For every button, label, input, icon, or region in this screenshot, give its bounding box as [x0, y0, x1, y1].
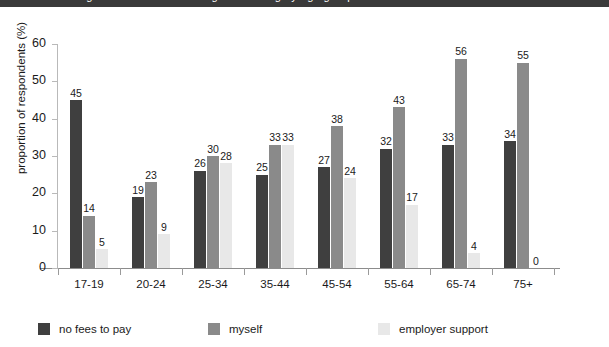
bar-group: 263028 — [182, 44, 244, 268]
bar[interactable] — [269, 145, 281, 268]
bar[interactable] — [145, 182, 157, 268]
bar-group: 253333 — [244, 44, 306, 268]
bar-wrapper: 43 — [393, 107, 405, 268]
bar[interactable] — [406, 205, 418, 268]
bar-value-label: 17 — [406, 192, 418, 203]
bar-value-label: 27 — [318, 155, 330, 166]
bar[interactable] — [393, 107, 405, 268]
legend-label: employer support — [399, 323, 488, 335]
bar[interactable] — [504, 141, 516, 268]
y-axis-tick-label: 0 — [0, 260, 46, 274]
bar-value-label: 32 — [380, 136, 392, 147]
x-axis-tick — [430, 268, 431, 275]
bar-group: 45145 — [58, 44, 120, 268]
x-axis-tick-label: 55-64 — [368, 278, 430, 296]
bar-wrapper: 33 — [282, 145, 294, 268]
bar-value-label: 26 — [194, 158, 206, 169]
bar[interactable] — [83, 216, 95, 268]
bar-value-label: 55 — [517, 50, 529, 61]
x-axis-ticks — [58, 268, 554, 276]
bar-group: 324317 — [368, 44, 430, 268]
bar[interactable] — [331, 126, 343, 268]
bar[interactable] — [517, 63, 529, 268]
bar-wrapper: 28 — [220, 163, 232, 268]
bar-value-label: 33 — [269, 132, 281, 143]
x-axis-tick-label: 25-34 — [182, 278, 244, 296]
x-axis-labels: 17-1920-2425-3435-4445-5455-6465-7475+ — [58, 278, 554, 296]
bar[interactable] — [455, 59, 467, 268]
bar[interactable] — [256, 175, 268, 268]
bar-wrapper: 23 — [145, 182, 157, 268]
bar-value-label: 25 — [256, 162, 268, 173]
bar[interactable] — [207, 156, 219, 268]
bar-wrapper: 14 — [83, 216, 95, 268]
bar-group: 33564 — [430, 44, 492, 268]
bar[interactable] — [96, 249, 108, 268]
bar-value-label: 19 — [132, 185, 144, 196]
legend-swatch-icon — [378, 323, 390, 335]
bar[interactable] — [158, 234, 170, 268]
figure-banner-title: figure 7: source of funding for learning… — [80, 0, 354, 2]
bar[interactable] — [220, 163, 232, 268]
x-axis-tick — [368, 268, 369, 275]
bar-wrapper: 34 — [504, 141, 516, 268]
bar-wrapper: 56 — [455, 59, 467, 268]
bar-wrapper: 24 — [344, 178, 356, 268]
bar-value-label: 0 — [533, 256, 539, 267]
legend-label: no fees to pay — [59, 323, 131, 335]
bar[interactable] — [132, 197, 144, 268]
bar-value-label: 33 — [282, 132, 294, 143]
bar-wrapper: 45 — [70, 100, 82, 268]
legend-swatch-icon — [208, 323, 220, 335]
bar-value-label: 5 — [99, 237, 105, 248]
legend-swatch-icon — [38, 323, 50, 335]
bar-group: 34550 — [492, 44, 554, 268]
x-axis-tick — [120, 268, 121, 275]
bar[interactable] — [318, 167, 330, 268]
chart-container: figure 7: source of funding for learning… — [0, 0, 609, 347]
bar-value-label: 4 — [471, 241, 477, 252]
bar-value-label: 23 — [145, 170, 157, 181]
bar-wrapper: 32 — [380, 149, 392, 268]
bar[interactable] — [194, 171, 206, 268]
x-axis-tick-label: 17-19 — [58, 278, 120, 296]
x-axis-tick — [244, 268, 245, 275]
legend-item[interactable]: no fees to pay — [38, 323, 208, 335]
bar[interactable] — [282, 145, 294, 268]
x-axis-tick — [492, 268, 493, 275]
x-axis-tick-label: 45-54 — [306, 278, 368, 296]
bar-group: 273824 — [306, 44, 368, 268]
bar-value-label: 28 — [220, 151, 232, 162]
x-axis-tick — [554, 268, 555, 275]
bar-wrapper: 55 — [517, 63, 529, 268]
bar-wrapper: 5 — [96, 249, 108, 268]
bar-value-label: 45 — [70, 88, 82, 99]
legend-item[interactable]: myself — [208, 323, 378, 335]
bar-value-label: 38 — [331, 114, 343, 125]
bar-wrapper: 9 — [158, 234, 170, 268]
bar[interactable] — [70, 100, 82, 268]
x-axis-tick-label: 35-44 — [244, 278, 306, 296]
bar-wrapper: 19 — [132, 197, 144, 268]
bar-wrapper: 27 — [318, 167, 330, 268]
bar-wrapper: 33 — [442, 145, 454, 268]
figure-banner: figure 7: source of funding for learning… — [0, 0, 609, 7]
bar-wrapper: 30 — [207, 156, 219, 268]
bar-value-label: 9 — [161, 222, 167, 233]
bar-wrapper: 4 — [468, 253, 480, 268]
x-axis-tick-label: 20-24 — [120, 278, 182, 296]
bar-wrapper: 26 — [194, 171, 206, 268]
legend-item[interactable]: employer support — [378, 323, 578, 335]
bar-wrapper: 25 — [256, 175, 268, 268]
bar[interactable] — [344, 178, 356, 268]
bar-group: 19239 — [120, 44, 182, 268]
bar-wrapper: 33 — [269, 145, 281, 268]
bar-value-label: 24 — [344, 166, 356, 177]
y-axis-title: proportion of respondents (%) — [15, 0, 27, 203]
bar[interactable] — [380, 149, 392, 268]
bar[interactable] — [442, 145, 454, 268]
bar[interactable] — [468, 253, 480, 268]
x-axis-tick — [182, 268, 183, 275]
chart-legend: no fees to paymyselfemployer support — [38, 321, 578, 337]
bar-groups: 4514519239263028253333273824324317335643… — [58, 44, 554, 268]
